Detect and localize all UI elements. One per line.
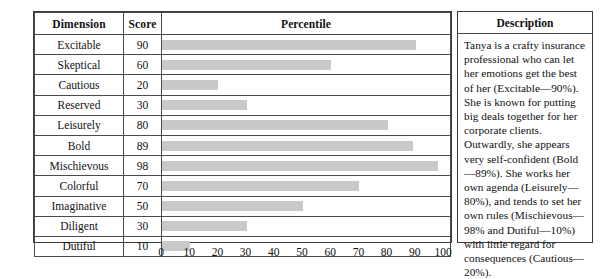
dimension-label: Diligent [35, 216, 124, 236]
percentile-axis: 0102030405060708090100 [33, 246, 593, 266]
description-panel: Description Tanya is a crafty insurance … [457, 11, 593, 243]
table-row: Diligent30 [35, 216, 451, 236]
axis-tick-label: 0 [158, 246, 164, 258]
table-row: Reserved30 [35, 95, 451, 115]
score-value: 30 [124, 95, 162, 115]
score-value: 80 [124, 115, 162, 135]
percentile-cell [162, 55, 451, 75]
dimension-label: Imaginative [35, 196, 124, 216]
dimension-label: Mischievous [35, 156, 124, 176]
percentile-cell [162, 95, 451, 115]
percentile-bar [162, 120, 388, 130]
column-header-dimension: Dimension [35, 13, 124, 35]
axis-tick-label: 80 [381, 246, 393, 258]
score-value: 90 [124, 35, 162, 55]
table-row: Skeptical60 [35, 55, 451, 75]
table-row: Excitable90 [35, 35, 451, 55]
table-body: Excitable90Skeptical60Cautious20Reserved… [35, 35, 451, 257]
axis-tick-label: 70 [353, 246, 365, 258]
percentile-cell [162, 196, 451, 216]
axis-tick-label: 50 [296, 246, 308, 258]
percentile-bar [162, 40, 416, 50]
description-text: Tanya is a crafty insurance professional… [458, 34, 592, 279]
score-value: 30 [124, 216, 162, 236]
percentile-cell [162, 135, 451, 155]
dimension-label: Excitable [35, 35, 124, 55]
dimension-label: Leisurely [35, 115, 124, 135]
table-header-row: Dimension Score Percentile [35, 13, 451, 35]
axis-tick-label: 40 [268, 246, 280, 258]
axis-tick-label: 60 [324, 246, 336, 258]
table-row: Leisurely80 [35, 115, 451, 135]
percentile-cell [162, 75, 451, 95]
table-row: Colorful70 [35, 176, 451, 196]
percentile-bar [162, 221, 247, 231]
percentile-bar [162, 161, 438, 171]
percentile-bar [162, 181, 359, 191]
column-header-description: Description [458, 12, 592, 34]
percentile-cell [162, 156, 451, 176]
percentile-bar [162, 201, 303, 211]
percentile-cell [162, 35, 451, 55]
table-row: Cautious20 [35, 75, 451, 95]
axis-tick-label: 10 [183, 246, 195, 258]
score-value: 60 [124, 55, 162, 75]
percentile-cell [162, 115, 451, 135]
score-value: 70 [124, 176, 162, 196]
score-value: 20 [124, 75, 162, 95]
dimension-label: Colorful [35, 176, 124, 196]
percentile-cell [162, 216, 451, 236]
axis-tick-label: 90 [409, 246, 421, 258]
score-value: 50 [124, 196, 162, 216]
dimension-score-percentile-table: Dimension Score Percentile Excitable90Sk… [33, 11, 452, 243]
percentile-bar [162, 80, 218, 90]
score-value: 89 [124, 135, 162, 155]
percentile-bar [162, 60, 331, 70]
axis-tick-label: 100 [434, 246, 451, 258]
dimension-label: Bold [35, 135, 124, 155]
column-header-score: Score [124, 13, 162, 35]
table-row: Bold89 [35, 135, 451, 155]
dimension-label: Cautious [35, 75, 124, 95]
table-row: Imaginative50 [35, 196, 451, 216]
axis-tick-label: 30 [240, 246, 252, 258]
percentile-cell [162, 176, 451, 196]
score-value: 98 [124, 156, 162, 176]
table-row: Mischievous98 [35, 156, 451, 176]
table-grid: Dimension Score Percentile Excitable90Sk… [34, 12, 451, 257]
axis-tick-label: 20 [212, 246, 224, 258]
dimension-label: Skeptical [35, 55, 124, 75]
percentile-bar [162, 100, 247, 110]
percentile-bar [162, 141, 413, 151]
column-header-percentile: Percentile [162, 13, 451, 35]
dimension-label: Reserved [35, 95, 124, 115]
